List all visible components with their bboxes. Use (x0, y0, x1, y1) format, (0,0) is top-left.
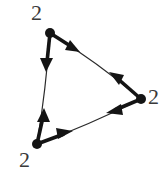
arrowhead-right-bottom-b (56, 128, 73, 139)
vertex-label-right: 2 (148, 86, 159, 108)
arrowhead-top-right-a (65, 40, 80, 52)
vertex-label-bottom: 2 (19, 149, 30, 171)
arrowhead-bottom-top-b (40, 58, 53, 72)
diagram-figure: 2 2 2 (0, 0, 165, 187)
vertex-label-top: 2 (31, 2, 42, 24)
vertex-right-dot[interactable] (136, 94, 146, 104)
edge-arrow-strokes (37, 33, 141, 144)
arrowhead-right-bottom-a (106, 104, 123, 115)
vertex-top-dot[interactable] (45, 28, 55, 38)
vertex-bottom-dot[interactable] (32, 139, 42, 149)
arrowheads (37, 40, 124, 139)
edge-lines (37, 33, 141, 144)
arrowhead-bottom-top-a (37, 108, 50, 122)
